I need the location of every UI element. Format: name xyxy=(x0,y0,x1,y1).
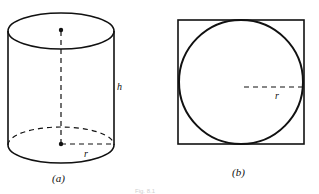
top-center-dot xyxy=(59,28,63,32)
inscribed-circle xyxy=(179,20,303,144)
figure-canvas: h r (a) r (b) Fig. 8.1 xyxy=(0,0,319,194)
height-label: h xyxy=(117,81,122,92)
circle-in-square-diagram xyxy=(178,20,304,144)
cylinder-diagram xyxy=(8,13,114,163)
radius-label-a: r xyxy=(84,148,88,159)
cylinder-bottom-front-arc xyxy=(8,145,114,163)
caption-a: (a) xyxy=(52,172,65,185)
figure-caption-partial: Fig. 8.1 xyxy=(135,188,156,194)
bottom-center-dot xyxy=(59,142,63,146)
caption-b: (b) xyxy=(232,166,245,179)
radius-label-b: r xyxy=(275,90,279,101)
